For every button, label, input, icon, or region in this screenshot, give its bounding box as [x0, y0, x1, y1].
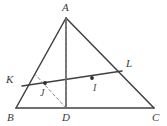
vertex-label-a: A: [62, 2, 69, 13]
triangle-side-ac: [66, 18, 154, 108]
vertex-label-l: L: [126, 58, 132, 69]
point-marker-i: [90, 76, 94, 80]
vertex-label-k: K: [6, 74, 13, 85]
point-label-j: J: [40, 88, 44, 98]
point-marker-j: [43, 81, 47, 85]
point-label-i: I: [93, 83, 96, 93]
transversal-kl: [22, 71, 122, 86]
dashed-segment-d-j: [33, 72, 66, 108]
vertex-label-c: C: [152, 112, 159, 123]
geometry-canvas: [0, 0, 167, 126]
geometry-figure: A B C D K L I J: [0, 0, 167, 126]
vertex-label-b: B: [7, 112, 14, 123]
vertex-label-d: D: [62, 112, 70, 123]
